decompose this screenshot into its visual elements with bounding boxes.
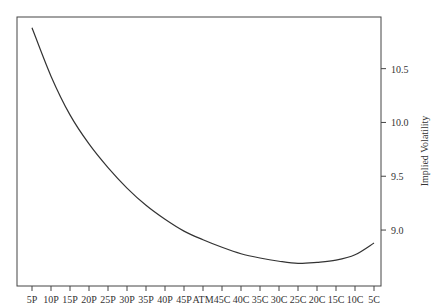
x-tick-label: 15C: [328, 294, 345, 305]
x-tick-label: 5P: [27, 294, 38, 305]
x-tick-label: 5C: [368, 294, 380, 305]
plot-frame: [17, 17, 381, 286]
implied-volatility-chart: 5P10P15P20P25P30P35P40P45PATM45C40C35C30…: [0, 0, 443, 308]
y-tick-label: 9.0: [391, 225, 404, 236]
x-tick-label: ATM: [192, 294, 213, 305]
x-tick-label: 30P: [119, 294, 135, 305]
x-tick-label: 45P: [176, 294, 192, 305]
x-axis: 5P10P15P20P25P30P35P40P45PATM45C40C35C30…: [27, 286, 380, 305]
x-tick-label: 35C: [252, 294, 269, 305]
x-tick-label: 35P: [138, 294, 154, 305]
x-tick-label: 30C: [271, 294, 288, 305]
y-tick-label: 10.5: [391, 64, 409, 75]
x-tick-label: 40C: [233, 294, 250, 305]
x-tick-label: 45C: [214, 294, 231, 305]
x-tick-label: 40P: [157, 294, 173, 305]
x-tick-label: 20P: [81, 294, 97, 305]
x-tick-label: 25C: [290, 294, 307, 305]
x-tick-label: 10C: [347, 294, 364, 305]
x-tick-label: 20C: [309, 294, 326, 305]
y-tick-label: 9.5: [391, 171, 404, 182]
y-axis: 9.09.510.010.5: [381, 64, 409, 236]
x-tick-label: 25P: [100, 294, 116, 305]
series-line-implied-volatility: [32, 28, 374, 264]
x-tick-label: 10P: [43, 294, 59, 305]
y-axis-title: Implied Volatility: [419, 116, 430, 186]
x-tick-label: 15P: [62, 294, 78, 305]
y-tick-label: 10.0: [391, 117, 409, 128]
